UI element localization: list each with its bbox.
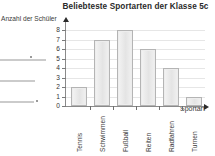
bar-turnen bbox=[186, 97, 202, 107]
bar-tennis bbox=[71, 87, 87, 106]
bar-fill bbox=[96, 42, 108, 105]
x-tick-label-reiten: Reiten bbox=[145, 133, 152, 152]
x-axis-line bbox=[65, 106, 205, 107]
y-tick-mark bbox=[62, 30, 66, 31]
x-tick-label-tennis: Tennis bbox=[76, 133, 83, 152]
bar-reiten bbox=[140, 49, 156, 106]
bar-radfahren bbox=[163, 68, 179, 106]
x-tick-mark bbox=[182, 106, 183, 110]
x-tick-label-schwimmen: Schwimmen bbox=[99, 116, 106, 152]
bar-schwimmen bbox=[94, 40, 110, 107]
x-tick-label-fussball: Fußball bbox=[122, 130, 129, 152]
y-tick-label-2: 2 bbox=[46, 84, 60, 90]
y-tick-mark bbox=[62, 87, 66, 88]
x-tick-mark bbox=[159, 106, 160, 110]
bar-fill bbox=[188, 99, 200, 105]
bar-fill bbox=[142, 51, 154, 104]
worksheet-rule bbox=[0, 80, 35, 82]
worksheet-rule bbox=[0, 101, 34, 103]
y-tick-mark bbox=[62, 97, 66, 98]
x-tick-label-radfahren: Radfahren bbox=[168, 121, 175, 152]
y-tick-label-3: 3 bbox=[46, 75, 60, 81]
gridline bbox=[66, 49, 205, 50]
gridline bbox=[66, 68, 205, 69]
y-axis-line bbox=[65, 22, 66, 106]
worksheet-rule bbox=[0, 59, 46, 61]
x-tick-mark bbox=[113, 106, 114, 110]
bar-fill bbox=[119, 32, 131, 104]
worksheet-rule-marker bbox=[30, 56, 32, 58]
y-tick-mark bbox=[62, 40, 66, 41]
chart-title: Beliebteste Sportarten der Klasse 5c bbox=[58, 2, 213, 11]
x-tick-label-turnen: Turnen bbox=[191, 131, 198, 152]
y-axis-label: Anzahl der Schüler bbox=[1, 15, 57, 22]
bar-fill bbox=[73, 89, 85, 104]
gridline bbox=[66, 59, 205, 60]
x-tick-mark bbox=[136, 106, 137, 110]
y-axis-arrow-icon bbox=[63, 17, 69, 22]
y-tick-label-8: 8 bbox=[46, 27, 60, 33]
y-tick-mark bbox=[62, 49, 66, 50]
x-axis-arrow-icon bbox=[204, 104, 209, 110]
gridline bbox=[66, 30, 205, 31]
gridline bbox=[66, 40, 205, 41]
y-tick-label-4: 4 bbox=[46, 65, 60, 71]
y-tick-label-1: 1 bbox=[46, 94, 60, 100]
y-tick-mark bbox=[62, 68, 66, 69]
y-tick-mark bbox=[62, 78, 66, 79]
y-tick-label-5: 5 bbox=[46, 56, 60, 62]
x-tick-mark bbox=[90, 106, 91, 110]
y-tick-label-0: 0 bbox=[46, 103, 60, 109]
bar-chart: Beliebteste Sportarten der Klasse 5c Anz… bbox=[0, 0, 215, 156]
bar-fussball bbox=[117, 30, 133, 106]
y-tick-label-6: 6 bbox=[46, 46, 60, 52]
y-tick-mark bbox=[62, 106, 66, 107]
worksheet-rule-marker bbox=[36, 100, 38, 102]
y-tick-label-7: 7 bbox=[46, 37, 60, 43]
y-tick-mark bbox=[62, 59, 66, 60]
bar-fill bbox=[165, 70, 177, 104]
gridline bbox=[66, 78, 205, 79]
